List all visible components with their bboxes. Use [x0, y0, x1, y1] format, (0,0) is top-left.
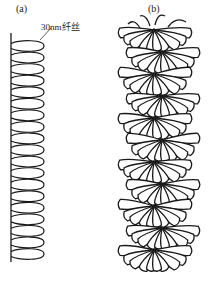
diagram-canvas [0, 0, 212, 283]
panel-b-radial-loops [118, 15, 200, 271]
panel-a-loops [11, 28, 51, 262]
